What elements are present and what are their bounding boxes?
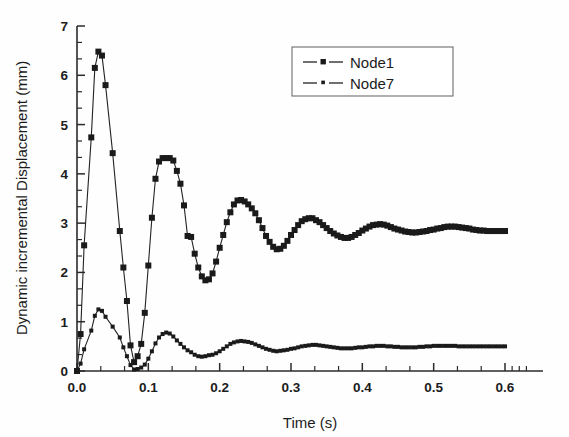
- data-point: [260, 345, 264, 349]
- data-point: [181, 202, 187, 208]
- x-tick-label: 0.0: [68, 380, 87, 395]
- x-tick-label: 0.5: [424, 380, 443, 395]
- data-point: [425, 344, 429, 348]
- y-tick-label: 3: [60, 216, 68, 231]
- chart-legend[interactable]: Node1 Node7: [292, 47, 453, 96]
- data-point: [136, 367, 140, 371]
- data-point: [118, 335, 122, 339]
- y-tick-label: 1: [60, 315, 68, 330]
- data-point: [138, 341, 144, 347]
- data-point: [446, 344, 450, 348]
- data-point: [442, 344, 446, 348]
- data-point: [392, 345, 396, 349]
- y-tick-label: 4: [60, 167, 68, 182]
- x-tick-label: 0.4: [353, 380, 372, 395]
- series-line-node1: [77, 52, 505, 371]
- data-point: [489, 344, 493, 348]
- data-point: [78, 331, 84, 337]
- data-point: [259, 225, 265, 231]
- data-point: [200, 355, 204, 359]
- data-point: [224, 219, 230, 225]
- data-point: [125, 354, 129, 358]
- data-point: [367, 344, 371, 348]
- data-point: [253, 342, 257, 346]
- data-point: [282, 348, 286, 352]
- data-point: [378, 344, 382, 348]
- data-point: [289, 347, 293, 351]
- data-series-group: [74, 49, 508, 374]
- data-point: [177, 181, 183, 187]
- data-point: [100, 309, 104, 313]
- data-point: [257, 344, 261, 348]
- data-point: [121, 345, 125, 349]
- data-point: [414, 345, 418, 349]
- chart-figure: 0.00.10.20.30.40.50.6 01234567 Time (s) …: [0, 0, 569, 437]
- data-point: [192, 251, 198, 257]
- data-point: [371, 344, 375, 348]
- data-point: [417, 345, 421, 349]
- x-tick-label: 0.6: [496, 380, 515, 395]
- data-point: [120, 265, 126, 271]
- data-point: [264, 347, 268, 351]
- data-point: [268, 348, 272, 352]
- data-point: [88, 134, 94, 140]
- x-tick-label: 0.2: [210, 380, 229, 395]
- data-point: [357, 345, 361, 349]
- data-point: [250, 341, 254, 345]
- data-point: [146, 357, 150, 361]
- x-tick-label: 0.1: [139, 380, 158, 395]
- data-point: [153, 341, 157, 345]
- data-point: [228, 342, 232, 346]
- data-point: [407, 345, 411, 349]
- data-point: [307, 343, 311, 347]
- data-point: [303, 344, 307, 348]
- data-point: [195, 265, 201, 271]
- data-point: [150, 349, 154, 353]
- data-point: [310, 343, 314, 347]
- data-point: [225, 344, 229, 348]
- data-point: [236, 339, 240, 343]
- data-point: [335, 346, 339, 350]
- data-point: [206, 276, 212, 282]
- y-axis-title: Dynamic incremental Displacement (mm): [13, 61, 30, 335]
- data-point: [239, 339, 243, 343]
- data-point: [435, 344, 439, 348]
- legend-marker-node7: [321, 81, 325, 85]
- data-point: [164, 331, 168, 335]
- data-point: [142, 310, 148, 316]
- data-point: [149, 215, 155, 221]
- data-point: [152, 176, 158, 182]
- data-point: [124, 298, 130, 304]
- data-point: [186, 348, 190, 352]
- line-chart: 0.00.10.20.30.40.50.6 01234567 Time (s) …: [0, 0, 569, 437]
- data-point: [104, 315, 108, 319]
- legend-marker-node1: [321, 59, 326, 64]
- data-point: [343, 346, 347, 350]
- data-point: [99, 53, 105, 59]
- data-point: [232, 340, 236, 344]
- data-point: [496, 344, 500, 348]
- data-point: [211, 353, 215, 357]
- data-point: [460, 344, 464, 348]
- data-point: [457, 344, 461, 348]
- data-point: [432, 344, 436, 348]
- data-point: [439, 344, 443, 348]
- x-tick-label: 0.3: [282, 380, 301, 395]
- data-point: [252, 210, 258, 216]
- data-point: [128, 342, 134, 348]
- data-point: [145, 263, 151, 269]
- data-point: [193, 353, 197, 357]
- y-tick-label: 7: [60, 19, 68, 34]
- data-point: [132, 368, 136, 372]
- data-point: [170, 158, 176, 164]
- data-point: [421, 345, 425, 349]
- data-point: [482, 344, 486, 348]
- data-point: [360, 345, 364, 349]
- data-point: [503, 344, 507, 348]
- y-tick-label: 0: [60, 364, 68, 379]
- data-point: [285, 348, 289, 352]
- data-point: [385, 344, 389, 348]
- data-point: [314, 343, 318, 347]
- data-point: [79, 362, 83, 366]
- data-point: [471, 344, 475, 348]
